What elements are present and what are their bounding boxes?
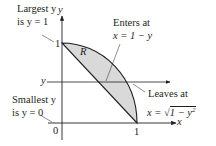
y-axis-label: y bbox=[58, 4, 63, 16]
enters-line2: x = 1 − y bbox=[113, 30, 152, 42]
leaves-line2: x = √1 − y2 bbox=[147, 103, 196, 119]
region-label: R bbox=[80, 46, 86, 58]
largest-y-line2: is y = 1 bbox=[17, 16, 48, 28]
horizontal-line-label: y bbox=[41, 75, 46, 87]
smallest-y-line1: Smallest y bbox=[12, 94, 56, 106]
leader-leaves bbox=[133, 84, 145, 92]
leaves-line1: Leaves at bbox=[148, 88, 188, 100]
x-axis-label: x bbox=[177, 116, 182, 128]
enters-line1: Enters at bbox=[113, 17, 150, 29]
origin-label: 0 bbox=[53, 125, 58, 137]
x-tick-one: 1 bbox=[134, 126, 139, 138]
largest-y-line1: Largest y bbox=[17, 3, 56, 15]
leaves-radicand: 1 − y2 bbox=[170, 106, 196, 118]
leader-largest bbox=[42, 35, 54, 42]
y-tick-one: 1 bbox=[55, 38, 60, 50]
leaves-prefix: x = bbox=[147, 107, 164, 118]
region-r bbox=[62, 43, 137, 123]
smallest-y-line2: is y = 0 bbox=[12, 107, 43, 119]
